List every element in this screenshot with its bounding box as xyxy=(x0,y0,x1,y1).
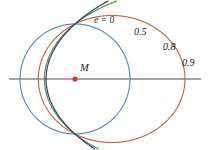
curve-label-e0: e = 0 xyxy=(94,16,114,26)
curve-label-e08: 0.8 xyxy=(163,42,176,52)
curve-label-e09: 0.9 xyxy=(182,58,195,68)
focus-marker-dot xyxy=(72,76,77,81)
focus-label-m: M xyxy=(80,63,89,74)
conic-orbits-figure: e = 0 0.5 0.8 0.9 M xyxy=(0,0,208,150)
curve-label-e05: 0.5 xyxy=(134,27,147,37)
focus-group xyxy=(72,76,77,81)
